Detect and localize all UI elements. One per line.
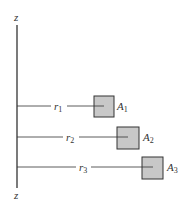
axis-top-label: z [13, 11, 19, 23]
area-label-1: A1 [116, 100, 128, 114]
area-square-2 [117, 127, 139, 149]
area-square-1 [94, 96, 114, 117]
axis-bottom-label: z [13, 189, 19, 200]
area-element-3: r3 A3 [17, 157, 178, 179]
area-label-2: A2 [142, 131, 154, 145]
radius-label-3: r3 [79, 161, 87, 175]
radius-label-1: r1 [54, 100, 62, 114]
diagram-canvas: z z r1 A1 r2 A2 r3 A3 [0, 0, 192, 200]
area-square-3 [142, 157, 163, 179]
radius-label-2: r2 [66, 131, 74, 145]
area-element-1: r1 A1 [17, 96, 128, 117]
area-label-3: A3 [166, 161, 178, 175]
area-element-2: r2 A2 [17, 127, 154, 149]
